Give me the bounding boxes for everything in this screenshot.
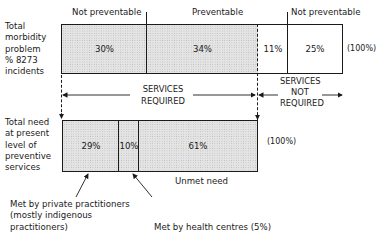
bottom-total: (100%) — [267, 136, 296, 147]
segment-value: 29% — [81, 141, 100, 151]
private-practitioners-annotation: Met by private practitioners (mostly ind… — [10, 199, 130, 233]
label-line: SERVICES — [280, 76, 320, 87]
label-line: SERVICES — [135, 83, 191, 95]
unmet-need-label: Unmet need — [175, 176, 228, 187]
label-line: REQUIRED — [135, 95, 191, 107]
label-line: practitioners) — [10, 222, 130, 233]
label-line: Met by health centres (5%) — [154, 222, 271, 233]
public-sector-annotation: Met by health centres (5%) and other res… — [154, 199, 271, 244]
segment-public-10: 10% — [119, 121, 139, 171]
total-need-label: Total need at present level of preventiv… — [5, 117, 51, 173]
arrow-private-icon — [76, 174, 88, 197]
label-line: level of — [5, 140, 51, 151]
label-line: Met by private practitioners — [10, 199, 130, 210]
segment-value: 10% — [119, 141, 138, 151]
label-line: at present — [5, 128, 51, 139]
segment-value: 61% — [188, 141, 207, 151]
label-line: NOT — [280, 87, 320, 98]
label-line: REQUIRED — [280, 98, 320, 109]
services-not-required-label: SERVICES NOT REQUIRED — [280, 76, 320, 109]
segment-unmet-61: 61% — [139, 121, 257, 171]
need-bar: 29% 10% 61% — [62, 120, 258, 172]
segment-divider — [138, 121, 139, 171]
label-line: preventive — [5, 151, 51, 162]
label-line: services — [5, 162, 51, 173]
services-required-label: SERVICES REQUIRED — [135, 83, 191, 107]
segment-divider — [118, 121, 119, 171]
segment-private-29: 29% — [63, 121, 119, 171]
arrow-public-icon — [133, 174, 152, 197]
label-line: (mostly indigenous — [10, 210, 130, 221]
label-line: Total need — [5, 117, 51, 128]
